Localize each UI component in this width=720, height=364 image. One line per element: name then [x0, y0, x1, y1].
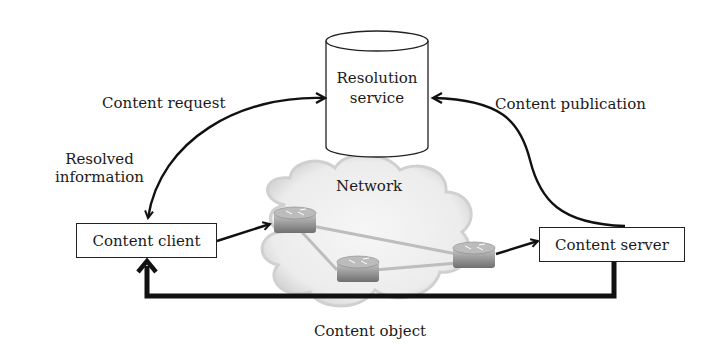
- resolution-service-line1: Resolution: [326, 68, 428, 88]
- content-server-label: Content server: [555, 236, 669, 254]
- content-publication-label: Content publication: [495, 95, 646, 113]
- router-icon: [337, 256, 379, 282]
- resolution-service-line2: service: [326, 88, 428, 108]
- resolved-information-line2: information: [52, 168, 147, 186]
- client-to-network-arrow: [217, 224, 270, 241]
- content-server-node: Content server: [539, 227, 685, 262]
- content-client-node: Content client: [76, 223, 217, 258]
- router-icon: [453, 242, 495, 268]
- resolved-information-label: Resolved information: [52, 150, 147, 186]
- resolution-service-label: Resolution service: [326, 68, 428, 108]
- content-client-label: Content client: [92, 232, 200, 250]
- network-to-server-arrow: [496, 241, 538, 254]
- router-icon: [274, 207, 316, 233]
- content-request-label: Content request: [102, 94, 225, 112]
- content-object-label: Content object: [314, 322, 426, 340]
- network-label: Network: [336, 177, 402, 195]
- resolved-information-line1: Resolved: [52, 150, 147, 168]
